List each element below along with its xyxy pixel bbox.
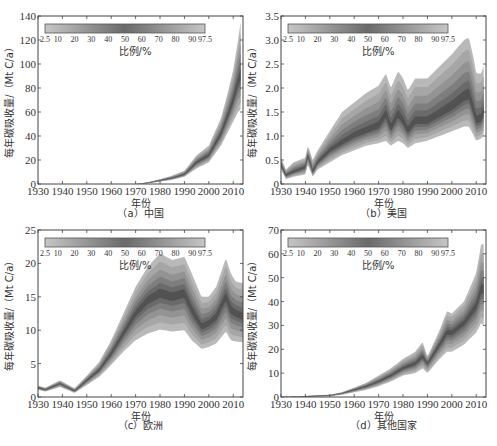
chart-panel-d: 1930194019501960197019801990200020100102… [0, 0, 497, 446]
colorbar-tick-label: 30 [330, 249, 338, 258]
colorbar-title: 比例/% [362, 259, 395, 271]
colorbar-tick-label: 2.5 [283, 249, 293, 258]
y-tick-label: 30 [268, 319, 280, 331]
colorbar-tick-label: 60 [381, 249, 389, 258]
y-tick-label: 50 [268, 272, 280, 284]
y-tick-label: 20 [268, 343, 280, 355]
x-tick-label: 2000 [441, 398, 464, 410]
x-tick-label: 1970 [368, 398, 391, 410]
x-tick-label: 1940 [294, 398, 317, 410]
colorbar-tick-label: 70 [398, 249, 406, 258]
y-tick-label: 10 [268, 367, 280, 379]
colorbar-tick-label: 10 [297, 249, 305, 258]
x-tick-label: 2010 [465, 398, 488, 410]
colorbar-tick-label: 50 [364, 249, 372, 258]
chart-svg: 1930194019501960197019801990200020100102… [0, 0, 497, 446]
y-tick-label: 70 [268, 224, 280, 236]
y-tick-label: 60 [268, 248, 280, 260]
colorbar [288, 238, 448, 247]
x-tick-label: 1990 [416, 398, 439, 410]
y-tick-label: 0 [274, 391, 280, 403]
x-tick-label: 1980 [392, 398, 415, 410]
x-tick-label: 1950 [319, 398, 342, 410]
y-tick-label: 40 [268, 296, 280, 308]
y-axis-title: 每年碳吸收量/（Mt C/a） [246, 256, 258, 372]
colorbar-tick-label: 80 [415, 249, 423, 258]
panel-caption: （d）其他国家 [350, 419, 416, 431]
x-tick-label: 1960 [343, 398, 366, 410]
colorbar-tick-label: 90 [431, 249, 439, 258]
colorbar-tick-label: 97.5 [441, 249, 455, 258]
colorbar-tick-label: 40 [347, 249, 355, 258]
colorbar-tick-label: 20 [313, 249, 321, 258]
